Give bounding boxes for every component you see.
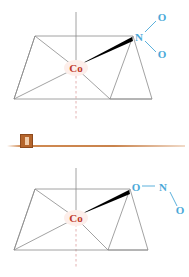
donor-label-nitrogen: N [135,31,143,43]
book-icon-glyph [25,137,29,145]
oxygen-label-lower: O [158,48,167,60]
cage-edge-left [14,36,35,99]
metal-label-co: Co [69,62,83,74]
wedge-bond-co-to-nitrogen [77,37,133,66]
book-icon [20,134,33,148]
figure-page: Co N O O [0,0,189,277]
divider-rule [7,145,185,147]
bond-n-o-upper [145,21,156,32]
structure-nitro-isomer: Co N O O [0,0,189,132]
structure-nitrito-isomer: Co O N O [0,160,189,277]
oxygen-label-terminal: O [176,204,185,216]
oxygen-label-upper: O [158,11,167,23]
nitrito-structure-drawing: Co O N O [0,160,189,277]
metal-label-co: Co [69,212,83,224]
nitrogen-label-central: N [159,181,167,193]
bond-n-o-lower [145,41,156,52]
nitro-structure-drawing: Co N O O [0,0,189,132]
donor-label-oxygen: O [132,181,141,193]
